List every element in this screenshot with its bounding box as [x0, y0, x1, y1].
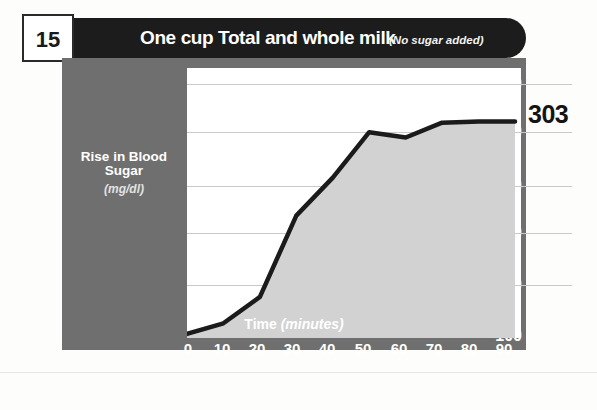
- x-tick-20: 20: [242, 340, 272, 357]
- x-axis-title-text: Time: [244, 316, 276, 332]
- header-subtitle: (No sugar added): [389, 34, 484, 46]
- x-tick-40: 40: [312, 340, 342, 357]
- x-tick-80: 80: [454, 340, 484, 357]
- page-background: One cup Total and whole milk (No sugar a…: [0, 0, 597, 410]
- y-axis-title: Rise in Blood Sugar (mg/dl): [76, 150, 172, 196]
- x-tick-0: 0: [173, 340, 203, 357]
- y-axis-units: (mg/dl): [76, 182, 172, 196]
- x-tick-10: 10: [207, 340, 237, 357]
- x-tick-60: 60: [384, 340, 414, 357]
- chart-number-label: 15: [24, 27, 72, 53]
- series-end-annotation: 303: [528, 100, 568, 129]
- chart-header-bar: One cup Total and whole milk (No sugar a…: [62, 18, 526, 58]
- chart-number-box: 15: [22, 14, 74, 62]
- y-axis-title-text: Rise in Blood Sugar: [81, 149, 167, 178]
- chart-frame: Rise in Blood Sugar (mg/dl) 350 300 250 …: [62, 58, 526, 350]
- page-title: One cup Total and whole milk: [140, 27, 396, 49]
- plot-area: [187, 68, 521, 338]
- page-footer-smudge: [250, 395, 370, 407]
- x-axis-title: Time (minutes): [62, 316, 526, 332]
- x-axis-units: (minutes): [281, 316, 344, 332]
- x-tick-50: 50: [348, 340, 378, 357]
- scan-artifact-line: [0, 372, 597, 373]
- blood-sugar-series: [187, 68, 521, 338]
- x-axis-tick-strip: 0 10 20 30 40 50 60 70 80 90: [62, 338, 526, 368]
- x-tick-30: 30: [277, 340, 307, 357]
- x-tick-70: 70: [419, 340, 449, 357]
- x-tick-90: 90: [489, 340, 519, 357]
